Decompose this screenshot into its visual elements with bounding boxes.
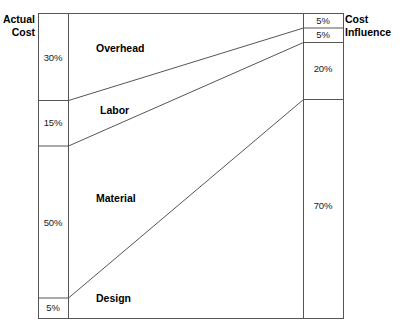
cost-influence-percent-design: 70% [303, 200, 343, 211]
band-label-design: Design [96, 292, 131, 304]
band-label-labor: Labor [100, 104, 129, 116]
diagram-outer-frame [39, 14, 344, 319]
band-label-overhead: Overhead [96, 42, 144, 54]
cost-influence-percent-overhead: 5% [303, 15, 343, 26]
actual-cost-percent-material: 50% [38, 217, 68, 228]
cost-influence-diagram: Actual Cost Cost Influence 30% 15% 50% 5… [0, 0, 403, 329]
actual-cost-axis-title: Actual Cost [1, 13, 35, 39]
cost-influence-axis-title: Cost Influence [345, 13, 403, 39]
actual-cost-percent-labor: 15% [38, 117, 68, 128]
band-label-material: Material [96, 192, 136, 204]
cost-influence-percent-labor: 5% [303, 29, 343, 40]
cost-influence-percent-material: 20% [303, 63, 343, 74]
diagram-canvas [0, 0, 403, 329]
actual-cost-percent-overhead: 30% [38, 52, 68, 63]
actual-cost-percent-design: 5% [38, 302, 68, 313]
